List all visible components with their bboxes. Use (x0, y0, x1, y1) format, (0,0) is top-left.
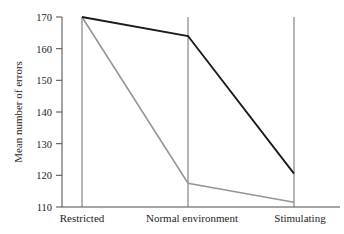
y-tick-label-110: 110 (37, 202, 52, 213)
line-chart: 170 160 150 140 130 120 110 Restricted N… (0, 0, 344, 234)
y-tick-label-160: 160 (36, 44, 52, 55)
y-tick-label-150: 150 (36, 75, 52, 86)
y-axis-title: Mean number of errors (12, 61, 24, 163)
y-tick-label-170: 170 (36, 12, 52, 23)
y-tick-label-120: 120 (36, 170, 52, 181)
x-category-label-stimulating: Stimulating (274, 212, 326, 224)
x-category-label-restricted: Restricted (60, 212, 105, 224)
x-category-label-normal-environment: Normal environment (146, 212, 238, 224)
chart-figure: 170 160 150 140 130 120 110 Restricted N… (0, 0, 344, 234)
y-tick-label-140: 140 (36, 107, 52, 118)
y-tick-label-130: 130 (36, 139, 52, 150)
